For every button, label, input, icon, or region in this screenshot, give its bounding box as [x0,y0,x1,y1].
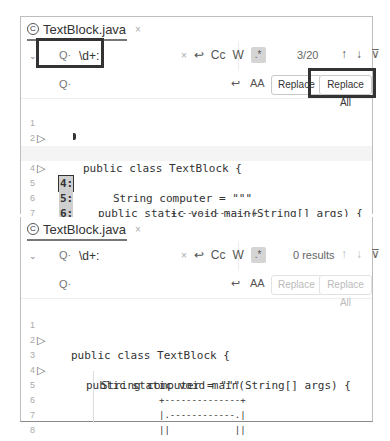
code-line: 3 ▷ public static void main(String[] arg… [21,333,372,348]
code-line: 2 [21,318,372,333]
editor-panel-no-results: C TextBlock.java × ⌄ Q· \d+: × ↩ Cc W .*… [20,217,373,422]
replace-row: Q· ↩ AA Replace Replace All [21,271,372,299]
search-icon[interactable]: Q· [59,249,71,261]
clear-search-icon[interactable]: × [181,50,187,61]
search-input[interactable]: \d+: [79,249,99,263]
tab-label: TextBlock.java [43,22,126,37]
code-line: 7 || || [21,393,372,408]
code-line: 6 |.------------.| [21,378,372,393]
previous-match-icon[interactable]: ↑ [341,247,347,261]
code-editor[interactable]: 1 ▷ public class TextBlock { 2 3 ▷ publi… [21,303,372,423]
editor-tab-bar: C TextBlock.java × [21,217,372,241]
words-toggle[interactable]: W [233,48,244,62]
code-line-current: 4 4: String computer = """ [21,146,372,161]
preserve-case-icon[interactable]: AA [250,277,265,290]
search-options: × ↩ Cc W .* [181,47,266,63]
search-field-highlight [36,38,104,68]
replace-button[interactable]: Replace [271,275,322,295]
match-case-toggle[interactable]: Cc [211,48,226,62]
code-line: 1 ▷ public class TextBlock { [21,303,372,318]
line-number: 8 [21,423,35,438]
code-line: 6 6: |.------------.| [21,176,372,191]
class-icon: C [27,23,39,35]
regex-toggle[interactable]: .* [251,247,266,263]
new-line-icon[interactable]: ↩ [194,48,204,62]
result-count: 3/20 [297,49,318,61]
match-navigation: ↑ ↓ ⊽ [341,247,380,261]
regex-toggle[interactable]: .* [251,47,266,63]
editor-tab-textblock[interactable]: C TextBlock.java × [27,217,149,241]
replace-options: ↩ AA [231,77,265,90]
preserve-newline-icon[interactable]: ↩ [231,77,240,90]
new-line-icon[interactable]: ↩ [194,248,204,262]
next-match-icon[interactable]: ↓ [356,47,362,61]
code-editor[interactable]: 1 ▷ 1: public class TextBlock { 2 2: 3 ▷… [21,101,372,221]
code-text: || || [159,423,246,438]
code-line: 3 ▷ 3: public static void main(String[] … [21,131,372,146]
tab-label: TextBlock.java [43,222,126,237]
code-line: 5 5: +--------------+ [21,161,372,176]
close-tab-icon[interactable]: × [135,24,141,35]
result-count: 0 results [293,249,335,261]
code-line: 4 String computer = """ [21,348,372,363]
class-icon: C [27,223,39,235]
replace-all-button[interactable]: Replace All [319,275,372,295]
code-line: 5 +--------------+ [21,363,372,378]
replace-search-icon[interactable]: Q· [59,278,71,290]
filter-icon[interactable]: ⊽ [371,47,380,61]
replace-all-highlight [308,68,376,98]
words-toggle[interactable]: W [233,248,244,262]
preserve-case-icon[interactable]: AA [250,77,265,90]
match-navigation: ↑ ↓ ⊽ [341,47,380,61]
replace-options: ↩ AA [231,277,265,290]
filter-icon[interactable]: ⊽ [371,247,380,261]
match-case-toggle[interactable]: Cc [211,248,226,262]
preserve-newline-icon[interactable]: ↩ [231,277,240,290]
search-options: × ↩ Cc W .* [181,247,266,263]
previous-match-icon[interactable]: ↑ [341,47,347,61]
next-match-icon[interactable]: ↓ [356,247,362,261]
text-caret [73,133,76,140]
code-line: 2 2: [21,116,372,131]
replace-search-icon[interactable]: Q· [59,78,71,90]
find-row: ⌄ Q· \d+: × ↩ Cc W .* 0 results ↑ ↓ ⊽ [21,241,372,271]
clear-search-icon[interactable]: × [181,250,187,261]
code-line: 7 7: || || [21,191,372,206]
code-line: 1 ▷ 1: public class TextBlock { [21,101,372,116]
close-tab-icon[interactable]: × [135,224,141,235]
code-line: 8 || || [21,408,372,423]
